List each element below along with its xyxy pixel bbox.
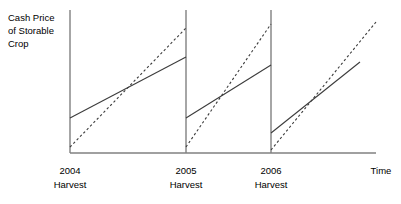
tick-label-2004-year: 2004 — [59, 165, 80, 176]
chart-figure: Cash Price of Storable Crop 2004 Harvest… — [0, 0, 401, 204]
y-axis-label-line-1: Cash Price — [8, 12, 54, 23]
tick-label-2006-year: 2006 — [260, 165, 281, 176]
solid-series-segment-1 — [70, 57, 186, 118]
solid-series-segment-3 — [271, 62, 360, 133]
y-axis-label-line-3: Crop — [8, 38, 29, 49]
dashed-series-segment-2 — [186, 24, 271, 147]
x-axis-label: Time — [371, 165, 392, 176]
dashed-series-segment-3 — [271, 22, 376, 150]
chart-canvas: Cash Price of Storable Crop 2004 Harvest… — [0, 0, 401, 204]
y-axis-label-line-2: of Storable — [8, 25, 54, 36]
tick-label-2006-event: Harvest — [255, 179, 288, 190]
tick-label-2004-event: Harvest — [54, 179, 87, 190]
tick-label-2005-event: Harvest — [170, 179, 203, 190]
tick-label-2005-year: 2005 — [175, 165, 196, 176]
solid-series-segment-2 — [186, 65, 271, 118]
